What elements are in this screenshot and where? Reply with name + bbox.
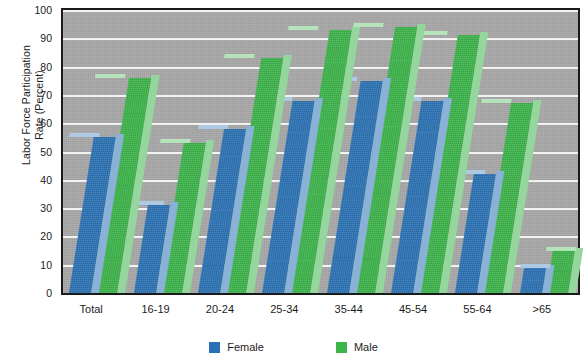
y-axis-tick-labels: 0102030405060708090100 <box>0 0 58 363</box>
y-axis-tick-label: 80 <box>40 61 52 73</box>
y-axis-tick-label: 50 <box>40 146 52 158</box>
x-axis-tick-label-25-34: 25-34 <box>270 303 298 315</box>
x-axis-tick-label-55-64: 55-64 <box>463 303 491 315</box>
bar-top-face <box>546 247 577 251</box>
bar-female->65 <box>520 268 542 293</box>
bar-series-container <box>63 10 578 293</box>
x-axis-tick-label->65: >65 <box>532 303 551 315</box>
bar-front-face <box>520 268 546 293</box>
x-axis-tick-label-45-54: 45-54 <box>399 303 427 315</box>
y-axis-tick-label: 10 <box>40 259 52 271</box>
legend-label-female: Female <box>227 341 264 353</box>
bar-top-face <box>520 264 551 268</box>
plot-area <box>61 8 580 295</box>
bar-top-face <box>224 54 255 58</box>
x-axis-tick-labels: Total16-1920-2425-3435-4445-5455-64>65 <box>61 303 580 325</box>
x-axis-tick-label-20-24: 20-24 <box>206 303 234 315</box>
legend-item-female[interactable]: Female <box>209 341 264 353</box>
legend-label-male: Male <box>354 341 378 353</box>
bar-top-face <box>288 26 319 30</box>
y-axis-tick-label: 60 <box>40 117 52 129</box>
y-axis-tick-label: 20 <box>40 230 52 242</box>
x-axis-tick-label-35-44: 35-44 <box>335 303 363 315</box>
bar-top-face <box>95 74 126 78</box>
legend-item-male[interactable]: Male <box>336 341 378 353</box>
chart-legend: FemaleMale <box>0 341 587 353</box>
y-axis-tick-label: 90 <box>40 32 52 44</box>
bar-top-face <box>481 99 512 103</box>
y-axis-tick-label: 70 <box>40 89 52 101</box>
y-axis-tick-label: 40 <box>40 174 52 186</box>
legend-swatch-male <box>336 342 347 353</box>
y-axis-tick-label: 100 <box>34 4 52 16</box>
legend-swatch-female <box>209 342 220 353</box>
bar-female-16-19 <box>134 205 156 293</box>
bar-texture <box>520 268 546 293</box>
bar-chart: Labor Force Participation Rate (Percent)… <box>0 0 587 363</box>
y-axis-tick-label: 0 <box>46 287 52 299</box>
bar-female-Total <box>69 137 91 293</box>
x-axis-tick-label-Total: Total <box>80 303 103 315</box>
x-axis-tick-label-16-19: 16-19 <box>141 303 169 315</box>
y-axis-tick-label: 30 <box>40 202 52 214</box>
